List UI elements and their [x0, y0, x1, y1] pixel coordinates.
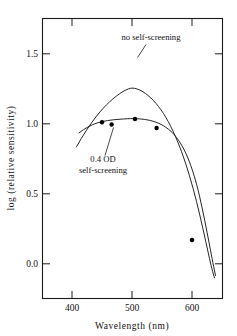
figure-container: 400 500 600 1.5 1.0 0.5 0.0 Wavelength (…	[0, 0, 237, 336]
data-point-450nm	[100, 120, 104, 124]
data-point-505nm	[133, 117, 137, 121]
annotation-04-od-label-line1: 0.4 OD	[90, 154, 115, 164]
data-point-541nm	[154, 126, 158, 130]
data-point-600nm	[190, 238, 195, 243]
y-ticklabel-2: 1.0	[26, 119, 38, 129]
x-axis-title: Wavelength (nm)	[95, 321, 169, 332]
x-ticklabel-0: 400	[65, 303, 80, 313]
spectral-sensitivity-chart: 400 500 600 1.5 1.0 0.5 0.0 Wavelength (…	[0, 0, 237, 336]
x-ticklabel-1: 500	[125, 303, 140, 313]
annotation-04-od-label-line2: self-screening	[79, 165, 128, 175]
x-ticklabel-2: 600	[185, 303, 200, 313]
annotation-no-self-screening-label: no self-screening	[122, 32, 182, 42]
y-ticklabel-3: 1.5	[26, 49, 38, 59]
y-axis-title: log (relative sensitivity)	[6, 105, 17, 210]
y-ticklabel-1: 0.5	[26, 189, 38, 199]
data-point-466nm	[109, 122, 113, 126]
y-ticklabel-0: 0.0	[26, 259, 38, 269]
